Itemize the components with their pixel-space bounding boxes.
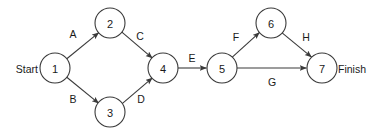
node-1[interactable]: 1 — [40, 53, 70, 83]
node-4[interactable]: 4 — [148, 53, 178, 83]
node-7[interactable]: 7 — [307, 53, 337, 83]
edge-label-g: G — [268, 76, 276, 88]
network-diagram: 1 2 3 4 5 6 — [0, 0, 374, 136]
network-diagram-canvas: 1 2 3 4 5 6 — [0, 0, 374, 136]
node-5-label: 5 — [219, 63, 225, 75]
node-1-label: 1 — [52, 63, 58, 75]
node-4-label: 4 — [160, 63, 166, 75]
edge-label-b: B — [69, 93, 76, 105]
edge-label-f: F — [233, 31, 239, 43]
edge-label-h: H — [302, 31, 310, 43]
node-3[interactable]: 3 — [95, 97, 125, 127]
node-7-label: 7 — [319, 63, 325, 75]
edge-label-group: A B C D E F G H — [69, 28, 309, 105]
node-6[interactable]: 6 — [256, 8, 286, 38]
start-label: Start — [16, 63, 38, 75]
edge-label-c: C — [136, 30, 144, 42]
node-3-label: 3 — [107, 107, 113, 119]
edge-label-e: E — [188, 52, 195, 64]
edge-label-a: A — [69, 28, 76, 40]
edge-label-d: D — [137, 93, 145, 105]
node-2[interactable]: 2 — [95, 8, 125, 38]
node-6-label: 6 — [268, 18, 274, 30]
node-5[interactable]: 5 — [207, 53, 237, 83]
finish-label: Finish — [338, 63, 366, 75]
edge-group — [67, 32, 312, 104]
node-2-label: 2 — [107, 18, 113, 30]
